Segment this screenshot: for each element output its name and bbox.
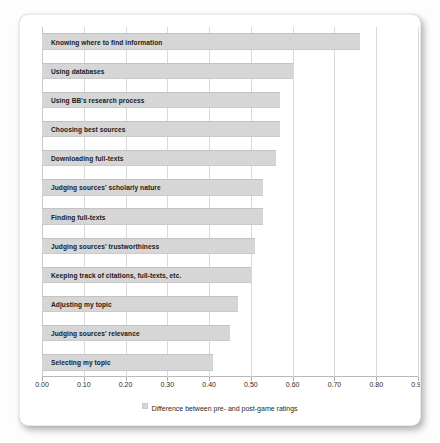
- plot-area: Knowing where to find informationUsing d…: [42, 27, 418, 377]
- bar-category-label: Adjusting my topic: [51, 301, 112, 308]
- bar: Judging sources' relevance: [42, 325, 230, 341]
- bar-category-label: Selecting my topic: [51, 359, 111, 366]
- bar-row: Using databases: [42, 63, 418, 79]
- bar-row: Downloading full-texts: [42, 150, 418, 166]
- x-axis-tick-label: 0.40: [202, 381, 216, 388]
- x-axis-tick-label: 0.80: [369, 381, 383, 388]
- bar: Selecting my topic: [42, 354, 213, 370]
- bar-category-label: Judging sources' trustworthiness: [51, 242, 159, 249]
- bar-row: Choosing best sources: [42, 121, 418, 137]
- bar-category-label: Finding full-texts: [51, 213, 106, 220]
- bar: Adjusting my topic: [42, 296, 238, 312]
- bar: Downloading full-texts: [42, 150, 276, 166]
- bar-category-label: Using BB's research process: [51, 96, 145, 103]
- gridline: [418, 27, 419, 377]
- bar-row: Adjusting my topic: [42, 296, 418, 312]
- bar-row: Judging sources' relevance: [42, 325, 418, 341]
- x-axis-tick-label: 0.50: [244, 381, 258, 388]
- x-axis-tick-label: 0.70: [328, 381, 342, 388]
- bar-row: Judging sources' scholarly nature: [42, 179, 418, 195]
- x-axis-tick-label: 0.30: [161, 381, 175, 388]
- bar: Knowing where to find information: [42, 33, 360, 49]
- bar-category-label: Choosing best sources: [51, 126, 126, 133]
- bar-row: Knowing where to find information: [42, 33, 418, 49]
- figure-card: Knowing where to find informationUsing d…: [19, 14, 421, 426]
- bar-category-label: Downloading full-texts: [51, 155, 123, 162]
- bars-layer: Knowing where to find informationUsing d…: [42, 27, 418, 377]
- bar: Using databases: [42, 63, 293, 79]
- bar-category-label: Judging sources' relevance: [51, 330, 140, 337]
- bar: Using BB's research process: [42, 92, 280, 108]
- bar-category-label: Keeping track of citations, full-texts, …: [51, 271, 181, 278]
- bar-row: Judging sources' trustworthiness: [42, 238, 418, 254]
- legend-swatch-icon: [142, 403, 148, 409]
- bar-category-label: Judging sources' scholarly nature: [51, 184, 161, 191]
- bar-row: Using BB's research process: [42, 92, 418, 108]
- bar: Keeping track of citations, full-texts, …: [42, 267, 251, 283]
- legend-label: Difference between pre- and post-game ra…: [151, 405, 297, 412]
- x-axis-tick-label: 0.10: [77, 381, 91, 388]
- x-axis-tick-label: 0.60: [286, 381, 300, 388]
- bar-row: Finding full-texts: [42, 208, 418, 224]
- bar: Finding full-texts: [42, 208, 263, 224]
- bar: Judging sources' scholarly nature: [42, 179, 263, 195]
- chart-legend: Difference between pre- and post-game ra…: [20, 403, 420, 413]
- bar: Judging sources' trustworthiness: [42, 238, 255, 254]
- bar-category-label: Using databases: [51, 67, 105, 74]
- bar-category-label: Knowing where to find information: [51, 38, 162, 45]
- bar: Choosing best sources: [42, 121, 280, 137]
- x-axis-labels: 0.000.100.200.300.400.500.600.700.800.90: [42, 381, 418, 395]
- bar-row: Keeping track of citations, full-texts, …: [42, 267, 418, 283]
- x-axis-tick-label: 0.90: [411, 381, 421, 388]
- bar-row: Selecting my topic: [42, 354, 418, 370]
- x-axis-tick-label: 0.00: [35, 381, 49, 388]
- x-axis-tick-label: 0.20: [119, 381, 133, 388]
